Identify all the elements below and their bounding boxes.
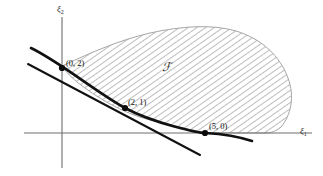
region-label: ℱ: [162, 61, 171, 73]
y-axis-label: ξ2: [57, 5, 64, 14]
x-axis-label-sub: 1: [304, 131, 307, 137]
point-2-1-label: (2, 1): [128, 98, 146, 107]
point-0-2-dot: [59, 65, 65, 71]
point-0-2-label: (0, 2): [66, 59, 84, 68]
y-axis-label-sub: 2: [61, 9, 64, 15]
diagram-svg: [0, 0, 323, 176]
x-axis-label: ξ1: [300, 127, 307, 136]
point-5-0-dot: [202, 130, 208, 136]
point-5-0-label: (5, 0): [209, 122, 227, 131]
feasible-region: [50, 18, 310, 143]
figure-canvas: [0, 0, 323, 176]
